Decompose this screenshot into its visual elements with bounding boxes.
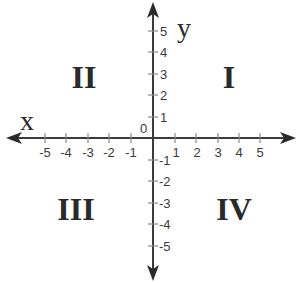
x-tick-label: -2: [103, 145, 115, 160]
y-axis-label: y: [177, 12, 191, 43]
x-axis-label: x: [20, 105, 34, 136]
x-tick-label: -4: [60, 145, 72, 160]
origin-label: 0: [140, 121, 147, 136]
y-tick-label: -5: [159, 239, 171, 254]
coordinate-plane: -5 -4 -3 -2 -1 1 2 3 4 5 1 2 3 4 5 -1 -2…: [0, 0, 300, 283]
y-tick-label: -2: [159, 174, 171, 189]
y-tick-label: -4: [159, 217, 171, 232]
y-tick-label: 4: [160, 45, 167, 60]
y-tick-label: 2: [160, 88, 167, 103]
quadrant-3-label: III: [57, 191, 94, 227]
quadrant-2-label: II: [72, 59, 97, 95]
y-axis: [147, 2, 159, 281]
x-tick-label: 3: [214, 145, 221, 160]
x-tick-label: -3: [82, 145, 94, 160]
y-tick-label: 3: [160, 67, 167, 82]
x-tick-label: -5: [39, 145, 51, 160]
x-tick-label: 5: [256, 145, 263, 160]
x-tick-label: 2: [193, 145, 200, 160]
y-tick-label: 1: [160, 110, 167, 125]
x-tick-label: 4: [235, 145, 242, 160]
x-tick-label: 1: [172, 145, 179, 160]
y-tick-label: 5: [160, 24, 167, 39]
x-tick-labels: -5 -4 -3 -2 -1 1 2 3 4 5: [39, 145, 263, 160]
x-tick-label: -1: [125, 145, 137, 160]
quadrant-1-label: I: [223, 59, 235, 95]
y-tick-label: -3: [159, 196, 171, 211]
y-tick-label: -1: [159, 153, 171, 168]
quadrant-4-label: IV: [216, 191, 252, 227]
x-axis: [6, 132, 296, 144]
